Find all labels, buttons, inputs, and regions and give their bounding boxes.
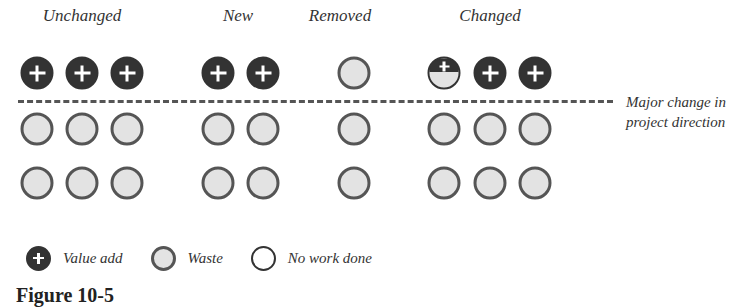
figure-caption: Figure 10-5 <box>16 284 114 307</box>
column-header-new: New <box>223 6 253 26</box>
direction-change-divider <box>18 100 613 103</box>
column-header-unchanged: Unchanged <box>43 6 121 26</box>
waste-circle-icon <box>428 113 461 146</box>
legend-label: No work done <box>288 250 372 267</box>
waste-circle-icon <box>519 167 552 200</box>
legend-item-no-work: No work done <box>251 246 372 271</box>
value-add-circle-icon <box>247 57 280 90</box>
value-add-circle-icon <box>519 57 552 90</box>
waste-circle-icon <box>247 167 280 200</box>
legend-item-value-add: Value add <box>26 246 123 271</box>
waste-circle-icon <box>66 113 99 146</box>
legend: Value add Waste No work done <box>26 245 400 271</box>
waste-circle-icon <box>202 167 235 200</box>
divider-annotation: Major change in project direction <box>626 92 726 132</box>
waste-circle-icon <box>151 246 176 271</box>
empty-circle-icon <box>251 246 276 271</box>
column-header-removed: Removed <box>309 6 371 26</box>
waste-circle-icon <box>519 113 552 146</box>
value-add-circle-icon <box>474 57 507 90</box>
waste-circle-icon <box>247 113 280 146</box>
waste-circle-icon <box>474 113 507 146</box>
waste-circle-icon <box>111 113 144 146</box>
value-add-circle-icon <box>26 246 51 271</box>
value-add-circle-icon <box>66 57 99 90</box>
legend-label: Value add <box>63 250 123 267</box>
waste-circle-icon <box>338 167 371 200</box>
waste-circle-icon <box>428 167 461 200</box>
annotation-line-2: project direction <box>626 112 726 132</box>
partial-value-waste-circle-icon <box>428 57 461 90</box>
waste-circle-icon <box>66 167 99 200</box>
annotation-line-1: Major change in <box>626 92 726 112</box>
legend-item-waste: Waste <box>151 246 223 271</box>
value-add-circle-icon <box>111 57 144 90</box>
waste-circle-icon <box>338 57 371 90</box>
waste-circle-icon <box>21 113 54 146</box>
waste-circle-icon <box>111 167 144 200</box>
waste-circle-icon <box>21 167 54 200</box>
waste-circle-icon <box>474 167 507 200</box>
column-header-changed: Changed <box>459 6 520 26</box>
waste-circle-icon <box>338 113 371 146</box>
value-add-circle-icon <box>21 57 54 90</box>
legend-label: Waste <box>188 250 223 267</box>
waste-circle-icon <box>202 113 235 146</box>
value-add-circle-icon <box>202 57 235 90</box>
